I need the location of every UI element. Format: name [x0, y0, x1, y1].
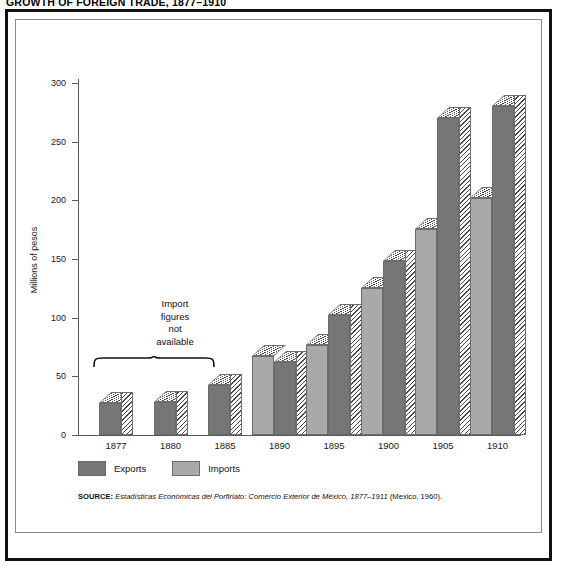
y-axis-tick-label: 150 [26, 254, 66, 264]
bar-exports-1910 [492, 106, 514, 435]
x-axis-tick-label: 1900 [361, 440, 417, 451]
bar-exports-1910-face [492, 106, 514, 435]
x-axis-tick-label: 1885 [197, 440, 253, 451]
y-axis-tick-label: 100 [26, 313, 66, 323]
y-axis-tick-label: 250 [26, 137, 66, 147]
bar-exports-1910-side [514, 95, 526, 435]
x-axis-tick-label: 1895 [306, 440, 362, 451]
bar-imports-1905 [415, 229, 437, 436]
bar-imports-1900 [361, 288, 383, 435]
chart-plot-area: Millions of pesos 050100150200250300 187… [0, 0, 561, 572]
bar-exports-1877 [99, 403, 121, 435]
bar-exports-1900-face [383, 261, 405, 435]
bar-imports-1900-face [361, 288, 383, 435]
bar-exports-1905 [437, 118, 459, 435]
bar-imports-1910-face [470, 198, 492, 435]
x-axis-tick-label: 1905 [415, 440, 471, 451]
y-axis-tick [72, 318, 79, 319]
annotation-line-1: Import [120, 298, 230, 311]
annotation-curly-brace [93, 356, 215, 368]
y-axis-tick [72, 142, 79, 143]
bar-exports-1877-face [99, 403, 121, 435]
bar-exports-1895 [328, 315, 350, 435]
y-axis-tick [72, 435, 79, 436]
bar-imports-1910 [470, 198, 492, 435]
y-axis-tick [72, 200, 79, 201]
y-axis-tick-label: 50 [26, 371, 66, 381]
y-axis-line [78, 79, 79, 436]
bar-exports-1885 [208, 385, 230, 435]
x-axis-tick-label: 1890 [252, 440, 308, 451]
bar-exports-1880 [154, 402, 176, 435]
annotation-line-4: available [120, 336, 230, 349]
bar-exports-1877-side [121, 392, 133, 435]
legend-label-imports: Imports [208, 463, 240, 474]
y-axis-tick-label: 300 [26, 78, 66, 88]
bar-exports-1880-face [154, 402, 176, 435]
bar-exports-1900 [383, 261, 405, 435]
bar-exports-1890 [274, 362, 296, 435]
source-label: SOURCE: [78, 492, 113, 501]
y-axis-tick [72, 376, 79, 377]
annotation-line-3: not [120, 323, 230, 336]
annotation-line-2: figures [120, 311, 230, 324]
bar-exports-1890-face [274, 362, 296, 435]
legend-swatch-imports [172, 461, 200, 476]
chart-legend: Exports Imports [78, 461, 240, 476]
legend-item-imports: Imports [172, 461, 240, 476]
bar-imports-1905-face [415, 229, 437, 436]
legend-swatch-exports [78, 461, 106, 476]
source-note: SOURCE: Estadísticas Económicas del Porf… [78, 492, 508, 502]
y-axis-tick [72, 259, 79, 260]
bar-exports-1885-side [230, 374, 242, 435]
legend-item-exports: Exports [78, 461, 146, 476]
y-axis-tick [72, 83, 79, 84]
import-unavailable-annotation: Import figures not available [120, 298, 230, 348]
bar-imports-1895-face [306, 345, 328, 435]
bar-imports-1890 [252, 356, 274, 435]
bar-exports-1895-face [328, 315, 350, 435]
bar-imports-1895 [306, 345, 328, 435]
bar-exports-1885-face [208, 385, 230, 435]
x-axis-tick-label: 1910 [470, 440, 526, 451]
source-publication: (Mexico, 1960). [390, 492, 442, 501]
y-axis-tick-label: 0 [26, 430, 66, 440]
legend-label-exports: Exports [114, 463, 146, 474]
source-title: Estadísticas Económicas del Porfiriato: … [115, 492, 388, 501]
x-axis-tick-label: 1880 [143, 440, 199, 451]
x-axis-line [78, 435, 521, 436]
x-axis-tick-label: 1877 [88, 440, 144, 451]
bar-exports-1905-face [437, 118, 459, 435]
y-axis-tick-label: 200 [26, 195, 66, 205]
bar-imports-1890-face [252, 356, 274, 435]
bar-exports-1880-side [176, 391, 188, 435]
